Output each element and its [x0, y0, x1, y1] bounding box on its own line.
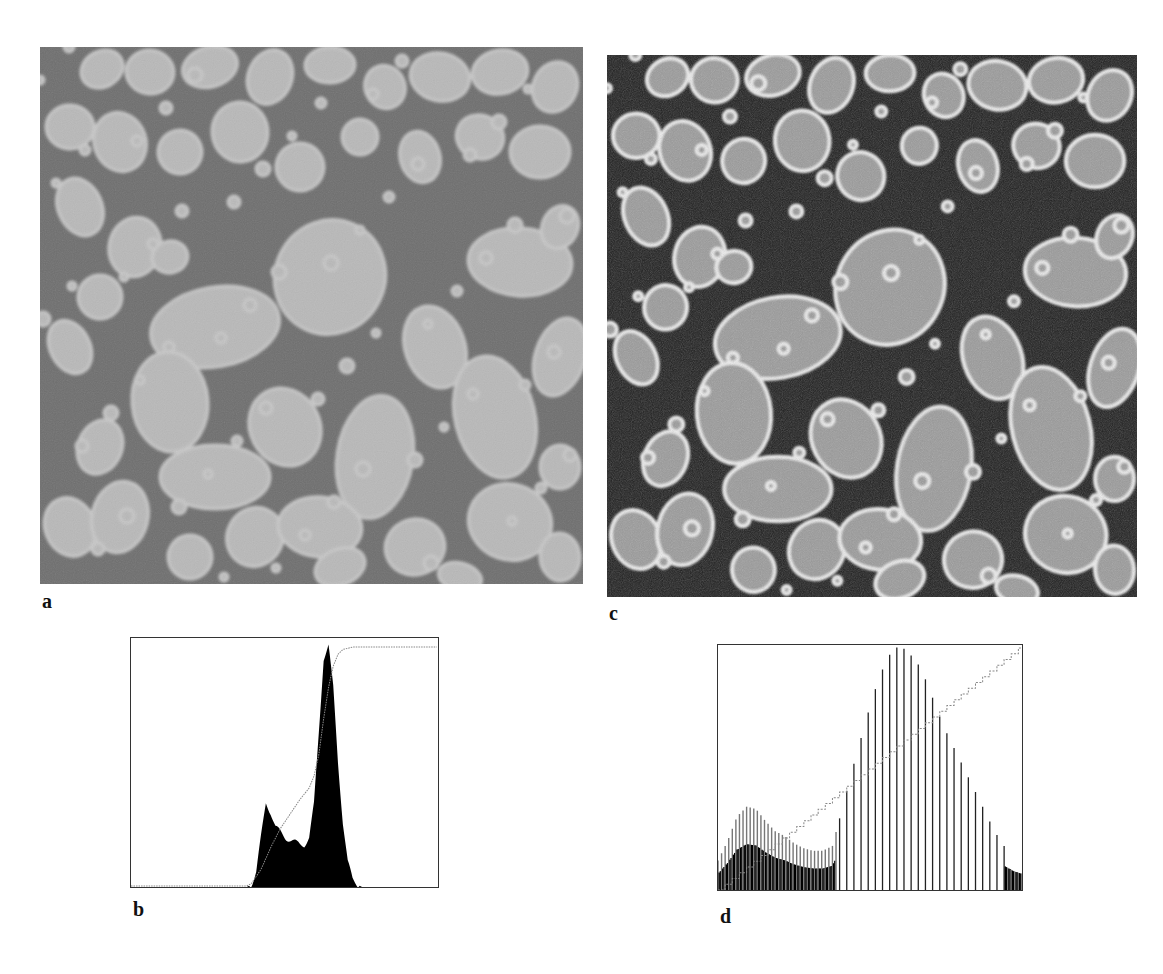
histogram-b-bars — [131, 645, 438, 887]
micrograph-a-graphic — [40, 47, 583, 584]
panel-label-b: b — [133, 898, 144, 921]
histogram-d — [717, 644, 1023, 891]
histogram-b — [130, 637, 439, 888]
histogram-d-plot — [718, 645, 1022, 890]
micrograph-c — [607, 55, 1137, 597]
histogram-b-plot — [131, 638, 438, 887]
panel-label-a: a — [42, 590, 52, 613]
panel-label-d: d — [720, 905, 731, 928]
micrograph-c-graphic — [607, 55, 1137, 597]
panel-label-c: c — [609, 602, 618, 625]
micrograph-a — [40, 47, 583, 584]
